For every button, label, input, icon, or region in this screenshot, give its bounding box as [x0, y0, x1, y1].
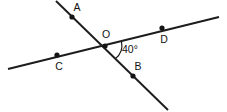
- point-label-o: O: [102, 28, 110, 40]
- point-dot-o: [102, 43, 107, 48]
- point-dot-c: [54, 52, 59, 57]
- angle-label-40: 40°: [122, 43, 138, 55]
- geometry-canvas: A O D C B 40°: [0, 0, 227, 112]
- point-label-d: D: [160, 33, 168, 45]
- point-dot-b: [130, 73, 135, 78]
- point-label-a: A: [73, 1, 80, 13]
- geometry-figure: A O D C B 40°: [0, 0, 227, 112]
- point-label-b: B: [134, 60, 141, 72]
- angle-arc-dob: [115, 42, 122, 59]
- line-cd: [8, 17, 219, 69]
- point-dot-a: [69, 14, 74, 19]
- point-label-c: C: [55, 60, 63, 72]
- point-dot-d: [159, 25, 164, 30]
